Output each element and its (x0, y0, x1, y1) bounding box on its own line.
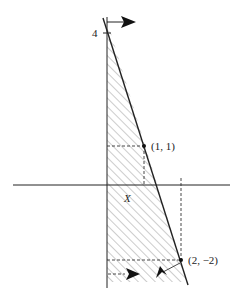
arrow-right-top-icon (107, 16, 136, 28)
y-tick-label-4: 4 (92, 27, 98, 39)
point-label-2-neg2: (2, −2) (188, 254, 218, 267)
point-2-neg2 (179, 258, 183, 262)
diagram-canvas: 4 (1, 1) (2, −2) X (0, 0, 241, 291)
region-label-x: X (123, 192, 132, 204)
point-label-1-1: (1, 1) (151, 140, 175, 153)
point-1-1 (142, 144, 146, 148)
